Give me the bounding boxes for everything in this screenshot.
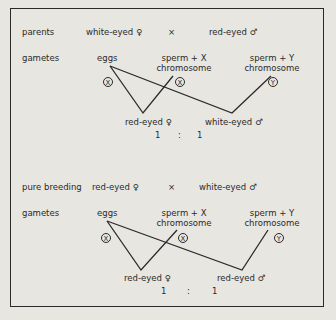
offspring-female: red-eyed ♀ bbox=[124, 273, 171, 283]
row-label-pure-breeding: pure breeding bbox=[22, 182, 82, 192]
cross-symbol: × bbox=[168, 27, 175, 37]
offspring-male: white-eyed ♂ bbox=[205, 117, 263, 127]
ratio-left: 1 bbox=[155, 130, 160, 140]
row-label-gametes: gametes bbox=[22, 53, 59, 63]
offspring-male: red-eyed ♂ bbox=[217, 273, 265, 283]
eggs-label: eggs bbox=[97, 53, 117, 63]
sperm-y-chromosome-icon: Y bbox=[274, 233, 284, 243]
ratio-right: 1 bbox=[212, 286, 217, 296]
row-label-parents: parents bbox=[22, 27, 54, 37]
cross-symbol: × bbox=[168, 182, 175, 192]
sperm-x-chromosome-icon: X bbox=[175, 77, 185, 87]
ratio-separator: : bbox=[187, 286, 190, 296]
sperm-y-label-2: chromosome bbox=[241, 218, 303, 228]
sperm-x-label-2: chromosome bbox=[154, 63, 214, 73]
female-parent: red-eyed ♀ bbox=[92, 182, 139, 192]
sperm-x-label: sperm + X bbox=[154, 208, 214, 218]
sperm-y-label-2: chromosome bbox=[241, 63, 303, 73]
sperm-y-label: sperm + Y bbox=[241, 208, 303, 218]
ratio-left: 1 bbox=[161, 286, 166, 296]
offspring-female: red-eyed ♀ bbox=[125, 117, 172, 127]
cross-lines bbox=[0, 0, 336, 320]
male-parent: red-eyed ♂ bbox=[209, 27, 257, 37]
female-parent: white-eyed ♀ bbox=[86, 27, 142, 37]
sperm-x-chromosome-icon: X bbox=[178, 233, 188, 243]
ratio-separator: : bbox=[178, 130, 181, 140]
male-parent: white-eyed ♂ bbox=[199, 182, 257, 192]
sperm-x-label-2: chromosome bbox=[154, 218, 214, 228]
eggs-label: eggs bbox=[97, 208, 117, 218]
sperm-y-chromosome-icon: Y bbox=[268, 77, 278, 87]
ratio-right: 1 bbox=[197, 130, 202, 140]
sperm-y-label: sperm + Y bbox=[241, 53, 303, 63]
row-label-gametes: gametes bbox=[22, 208, 59, 218]
egg-x-chromosome-icon: X bbox=[103, 77, 113, 87]
egg-x-chromosome-icon: X bbox=[101, 233, 111, 243]
sperm-x-label: sperm + X bbox=[154, 53, 214, 63]
